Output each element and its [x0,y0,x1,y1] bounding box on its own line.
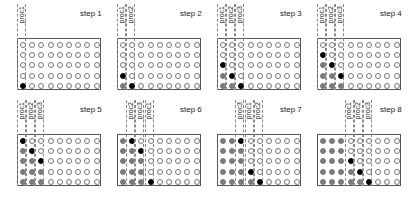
completed-cell [320,158,326,164]
completed-cell [220,169,226,175]
completed-cell [320,148,326,154]
empty-cell [48,148,54,154]
empty-cell [357,83,363,89]
process-label: proc2 [27,102,35,120]
empty-cell [57,42,63,48]
completed-cell [229,138,235,144]
empty-cell [294,148,300,154]
step-panel: step 7proc3proc1proc2 [217,96,317,191]
empty-cell [94,73,100,79]
empty-cell [38,52,44,58]
empty-cell [175,179,181,185]
completed-cell [120,169,126,175]
empty-cell [157,83,163,89]
completed-cell [229,169,235,175]
empty-cell [248,62,254,68]
empty-cell [84,148,90,154]
empty-cell [375,169,381,175]
empty-cell [48,62,54,68]
completed-cell [329,169,335,175]
empty-cell [94,52,100,58]
step-panel: step 8proc1proc2proc3 [317,96,409,191]
empty-cell [94,83,100,89]
completed-cell [229,179,235,185]
empty-cell [375,52,381,58]
empty-cell [84,138,90,144]
empty-cell [275,158,281,164]
process-label: proc1 [245,102,253,120]
empty-cell [394,62,400,68]
process-label: proc1 [18,6,26,24]
empty-cell [375,83,381,89]
empty-cell [248,42,254,48]
empty-cell [138,42,144,48]
empty-cell [266,138,272,144]
empty-cell [284,148,290,154]
empty-cell [166,83,172,89]
empty-cell [357,62,363,68]
empty-cell [366,62,372,68]
process-label: proc2 [127,6,135,24]
process-label: proc2 [327,6,335,24]
empty-cell [357,42,363,48]
completed-cell [220,148,226,154]
empty-cell [394,169,400,175]
empty-cell [29,62,35,68]
empty-cell [384,42,390,48]
empty-cell [66,179,72,185]
step-label: step 7 [280,105,302,114]
empty-cell [194,73,200,79]
empty-cell [148,73,154,79]
completed-cell [220,138,226,144]
empty-cell [266,83,272,89]
empty-cell [84,42,90,48]
process-column-proc2: proc2 [126,4,135,90]
empty-cell [375,42,381,48]
empty-cell [175,73,181,79]
empty-cell [257,73,263,79]
empty-cell [194,62,200,68]
empty-cell [294,179,300,185]
empty-cell [266,179,272,185]
empty-cell [394,83,400,89]
empty-cell [184,52,190,58]
step-label: step 8 [380,105,402,114]
empty-cell [284,179,290,185]
empty-cell [257,62,263,68]
process-column-proc2: proc2 [254,100,263,186]
empty-cell [266,158,272,164]
empty-cell [157,42,163,48]
empty-cell [375,138,381,144]
empty-cell [384,138,390,144]
empty-cell [94,169,100,175]
empty-cell [157,179,163,185]
completed-cell [329,138,335,144]
completed-cell [338,169,344,175]
empty-cell [275,52,281,58]
completed-cell [338,148,344,154]
empty-cell [294,158,300,164]
empty-cell [194,179,200,185]
completed-cell [229,158,235,164]
empty-cell [375,62,381,68]
process-label: proc1 [318,6,326,24]
empty-cell [75,158,81,164]
empty-cell [38,73,44,79]
empty-cell [94,42,100,48]
empty-cell [157,158,163,164]
empty-cell [275,42,281,48]
empty-cell [57,179,63,185]
empty-cell [384,169,390,175]
empty-cell [75,73,81,79]
empty-cell [157,169,163,175]
empty-cell [394,148,400,154]
step-label: step 1 [80,9,102,18]
step-panel: step 4proc1proc2proc3 [317,0,409,95]
step-label: step 4 [380,9,402,18]
empty-cell [266,148,272,154]
empty-cell [75,83,81,89]
empty-cell [166,148,172,154]
empty-cell [266,62,272,68]
empty-cell [66,158,72,164]
process-label: proc3 [364,102,372,120]
